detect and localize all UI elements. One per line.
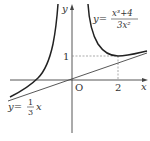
asymptote-line [8,53,147,101]
x-tick-2: 2 [115,82,121,93]
y-tick-1: 1 [63,51,69,62]
curve-eq-denominator: 3x² [117,20,131,30]
curve-left-branch [10,4,58,97]
y-axis-arrow-icon [70,4,74,10]
origin-label: O [75,82,83,93]
asym-eq-rhs: x [36,101,42,112]
asym-eq-lhs: y= [7,101,22,112]
asym-eq-num: 1 [28,98,33,107]
curve-eq-numerator: x³+4 [112,8,133,18]
curve-equation: y= x³+4 3x² [92,8,138,30]
x-axis-label: x [141,81,147,92]
curve-eq-lhs: y= [92,13,107,24]
asym-eq-den: 3 [28,108,33,117]
y-axis-label: y [61,3,68,14]
function-graph: y x O 2 1 y= x³+4 3x² y= 1 3 x [0,0,150,141]
asymptote-equation: y= 1 3 x [7,98,42,117]
